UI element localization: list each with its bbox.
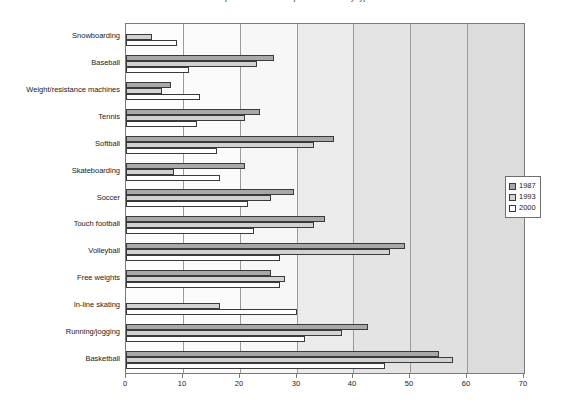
x-axis-tick: [296, 374, 297, 378]
y-axis-label: Touch football: [0, 219, 120, 228]
x-axis: 010203040506070: [125, 374, 526, 396]
legend-swatch-2000: [509, 205, 516, 212]
y-axis-label: Running/jogging: [0, 327, 120, 336]
y-axis-label: Skateboarding: [0, 166, 120, 175]
legend-label: 2000: [519, 204, 536, 212]
legend-item: 1987: [509, 181, 536, 191]
legend-swatch-1987: [509, 183, 516, 190]
legend-swatch-1993: [509, 194, 516, 201]
y-axis-label: Free weights: [0, 273, 120, 282]
y-axis-label: In-line skating: [0, 300, 120, 309]
x-axis-tick: [125, 374, 126, 378]
y-axis-labels: SnowboardingBaseballWeight/resistance ma…: [0, 23, 575, 374]
legend: 198719932000: [505, 176, 541, 218]
x-axis-tick: [409, 374, 410, 378]
y-axis-label: Snowboarding: [0, 31, 120, 40]
legend-item: 1993: [509, 192, 536, 202]
x-axis-tick: [523, 374, 524, 378]
y-axis-label: Weight/resistance machines: [0, 85, 120, 94]
y-axis-label: Basketball: [0, 354, 120, 363]
y-axis-label: Tennis: [0, 112, 120, 121]
y-axis-label: Volleyball: [0, 246, 120, 255]
x-axis-tick-label: 30: [292, 379, 300, 388]
legend-item: 2000: [509, 203, 536, 213]
y-axis-label: Softball: [0, 139, 120, 148]
x-axis-tick: [182, 374, 183, 378]
bar-chart: Participation in selected sports activit…: [0, 0, 575, 414]
x-axis-tick-label: 10: [178, 379, 186, 388]
x-axis-tick-label: 60: [462, 379, 470, 388]
chart-title: Participation in selected sports activit…: [0, 0, 575, 2]
x-axis-tick: [352, 374, 353, 378]
x-axis-tick-label: 50: [405, 379, 413, 388]
y-axis-label: Soccer: [0, 193, 120, 202]
y-axis-label: Baseball: [0, 58, 120, 67]
x-axis-tick-label: 70: [519, 379, 527, 388]
x-axis-tick: [239, 374, 240, 378]
legend-label: 1993: [519, 193, 536, 201]
x-axis-tick-label: 20: [235, 379, 243, 388]
legend-label: 1987: [519, 182, 536, 190]
x-axis-tick-label: 40: [348, 379, 356, 388]
x-axis-tick: [466, 374, 467, 378]
x-axis-tick-label: 0: [123, 379, 127, 388]
